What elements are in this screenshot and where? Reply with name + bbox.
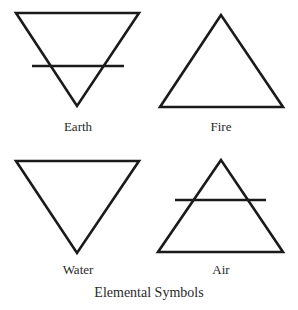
water-label: Water: [38, 263, 118, 276]
earth-label: Earth: [38, 120, 118, 133]
air-symbol-icon: [158, 160, 283, 252]
fire-label: Fire: [181, 120, 261, 133]
water-symbol-icon: [16, 161, 139, 253]
elemental-symbols-diagram: Earth Fire Water Air Elemental Symbols: [0, 0, 298, 310]
fire-symbol-icon: [160, 15, 283, 107]
diagram-caption: Elemental Symbols: [0, 286, 298, 300]
earth-symbol-icon: [16, 13, 139, 106]
air-label: Air: [181, 263, 261, 276]
